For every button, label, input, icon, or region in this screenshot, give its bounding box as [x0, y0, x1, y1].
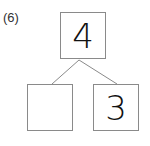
known-part-box: 3: [93, 84, 139, 131]
whole-number-box: 4: [60, 12, 106, 59]
missing-part-box[interactable]: [27, 84, 73, 131]
